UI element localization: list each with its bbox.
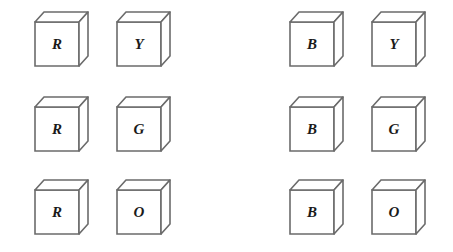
cube-face-label: B (290, 190, 334, 234)
cube-face-label: B (290, 107, 334, 151)
cube-left-row2-col2: G (115, 95, 171, 151)
cube-face-label: R (35, 107, 79, 151)
cube-left-row1-col1: R (33, 10, 89, 66)
cube-face-label: B (290, 22, 334, 66)
cube-right-row1-col2: Y (370, 10, 426, 66)
cube-face-label: O (117, 190, 161, 234)
cube-right-row1-col1: B (288, 10, 344, 66)
cube-left-row3-col2: O (115, 178, 171, 234)
cube-right-row3-col1: B (288, 178, 344, 234)
cube-right-row2-col1: B (288, 95, 344, 151)
cube-right-row3-col2: O (370, 178, 426, 234)
cube-face-label: Y (117, 22, 161, 66)
cube-left-row3-col1: R (33, 178, 89, 234)
cube-face-label: G (372, 107, 416, 151)
cube-face-label: R (35, 22, 79, 66)
cube-face-label: G (117, 107, 161, 151)
cube-left-row2-col1: R (33, 95, 89, 151)
cube-right-row2-col2: G (370, 95, 426, 151)
cube-left-row1-col2: Y (115, 10, 171, 66)
cube-face-label: R (35, 190, 79, 234)
cube-face-label: O (372, 190, 416, 234)
cube-face-label: Y (372, 22, 416, 66)
